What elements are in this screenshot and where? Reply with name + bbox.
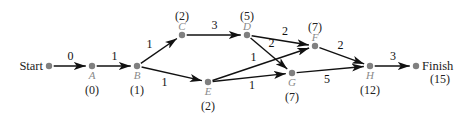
edge-g-to-h bbox=[297, 67, 364, 73]
node-time: (7) bbox=[285, 90, 299, 104]
node-b: B(1) bbox=[130, 63, 144, 97]
node-start: Start bbox=[19, 59, 52, 73]
node-time: (12) bbox=[360, 83, 380, 97]
edge-weight-b-c: 1 bbox=[147, 37, 153, 51]
node-label: Finish bbox=[422, 59, 454, 73]
edge-weight-h-finish: 3 bbox=[390, 49, 396, 63]
node-c: C(2) bbox=[175, 9, 189, 38]
edge-weight-e-g: 1 bbox=[249, 78, 255, 92]
edges bbox=[54, 35, 410, 81]
edge-weight-b-e: 1 bbox=[162, 75, 168, 89]
node-name: H bbox=[365, 69, 375, 81]
node-time: (2) bbox=[175, 9, 189, 23]
node-finish: Finish(15) bbox=[413, 59, 454, 86]
node-g: G(7) bbox=[285, 70, 299, 104]
node-d: D(5) bbox=[240, 9, 254, 38]
edge-weights: 011132211253 bbox=[68, 18, 397, 92]
node-dot bbox=[179, 32, 185, 38]
edge-weight-c-d: 3 bbox=[212, 18, 218, 32]
node-time: (1) bbox=[130, 83, 144, 97]
node-name: A bbox=[88, 69, 96, 81]
node-time: (2) bbox=[201, 99, 215, 113]
node-time: (5) bbox=[240, 9, 254, 23]
edge-weight-d-f: 2 bbox=[282, 24, 288, 38]
edge-weight-e-f: 1 bbox=[251, 50, 257, 64]
node-f: F(7) bbox=[308, 20, 322, 49]
edge-d-to-f bbox=[252, 36, 309, 45]
node-name: E bbox=[204, 85, 212, 97]
node-time: (0) bbox=[85, 83, 99, 97]
edge-weight-f-h: 2 bbox=[338, 38, 344, 52]
edge-weight-g-h: 5 bbox=[324, 72, 330, 86]
node-dot bbox=[312, 43, 318, 49]
node-e: E(2) bbox=[201, 79, 215, 113]
edge-weight-start-a: 0 bbox=[68, 49, 74, 63]
node-time: (15) bbox=[430, 72, 450, 86]
node-dot bbox=[413, 63, 419, 69]
edge-b-to-e bbox=[142, 67, 202, 81]
node-name: B bbox=[134, 69, 141, 81]
activity-network-diagram: 011132211253 StartA(0)B(1)C(2)D(5)E(2)F(… bbox=[0, 0, 469, 120]
edge-weight-d-g: 2 bbox=[269, 36, 275, 50]
node-label: Start bbox=[19, 59, 43, 73]
node-h: H(12) bbox=[360, 63, 380, 97]
nodes: StartA(0)B(1)C(2)D(5)E(2)F(7)G(7)H(12)Fi… bbox=[19, 9, 454, 113]
node-time: (7) bbox=[308, 20, 322, 34]
edge-weight-a-b: 1 bbox=[112, 49, 118, 63]
node-dot bbox=[244, 32, 250, 38]
node-dot bbox=[46, 63, 52, 69]
node-name: G bbox=[288, 76, 296, 88]
node-a: A(0) bbox=[85, 63, 99, 97]
